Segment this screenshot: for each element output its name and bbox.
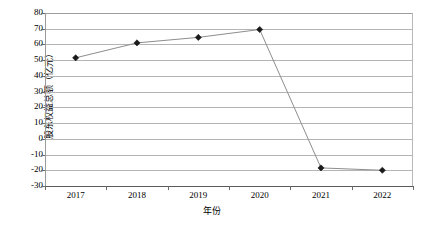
- data-point-marker: [195, 34, 201, 40]
- y-tick-label: 20: [9, 102, 43, 111]
- data-point-marker: [73, 55, 79, 61]
- y-tick-label: 60: [9, 39, 43, 48]
- line-chart: 股东权益总额（亿元） 80706050403020100-10-20-30 20…: [0, 0, 424, 230]
- y-tick-label: 80: [9, 8, 43, 17]
- x-tick-label: 2019: [168, 190, 228, 200]
- series-layer: [45, 13, 413, 186]
- x-axis-title: 年份: [0, 206, 424, 217]
- data-point-marker: [257, 26, 263, 32]
- plot-area: [45, 13, 413, 186]
- x-tick-label: 2017: [46, 190, 106, 200]
- x-tick-label: 2021: [291, 190, 351, 200]
- y-tick-label: 10: [9, 118, 43, 127]
- y-tick-label: 70: [9, 24, 43, 33]
- y-tick-label: 50: [9, 55, 43, 64]
- y-tick-label: 40: [9, 71, 43, 80]
- y-tick-label: -30: [9, 181, 43, 190]
- y-tick-label: 0: [9, 134, 43, 143]
- y-tick-label: -20: [9, 165, 43, 174]
- data-point-marker: [379, 167, 385, 173]
- data-point-marker: [318, 165, 324, 171]
- x-tick-label: 2020: [230, 190, 290, 200]
- x-tick-label: 2022: [352, 190, 412, 200]
- y-tick-label: -10: [9, 150, 43, 159]
- x-tick-label: 2018: [107, 190, 167, 200]
- x-tick-mark: [413, 186, 414, 190]
- y-tick-label: 30: [9, 87, 43, 96]
- data-point-marker: [134, 40, 140, 46]
- series-line: [76, 30, 383, 171]
